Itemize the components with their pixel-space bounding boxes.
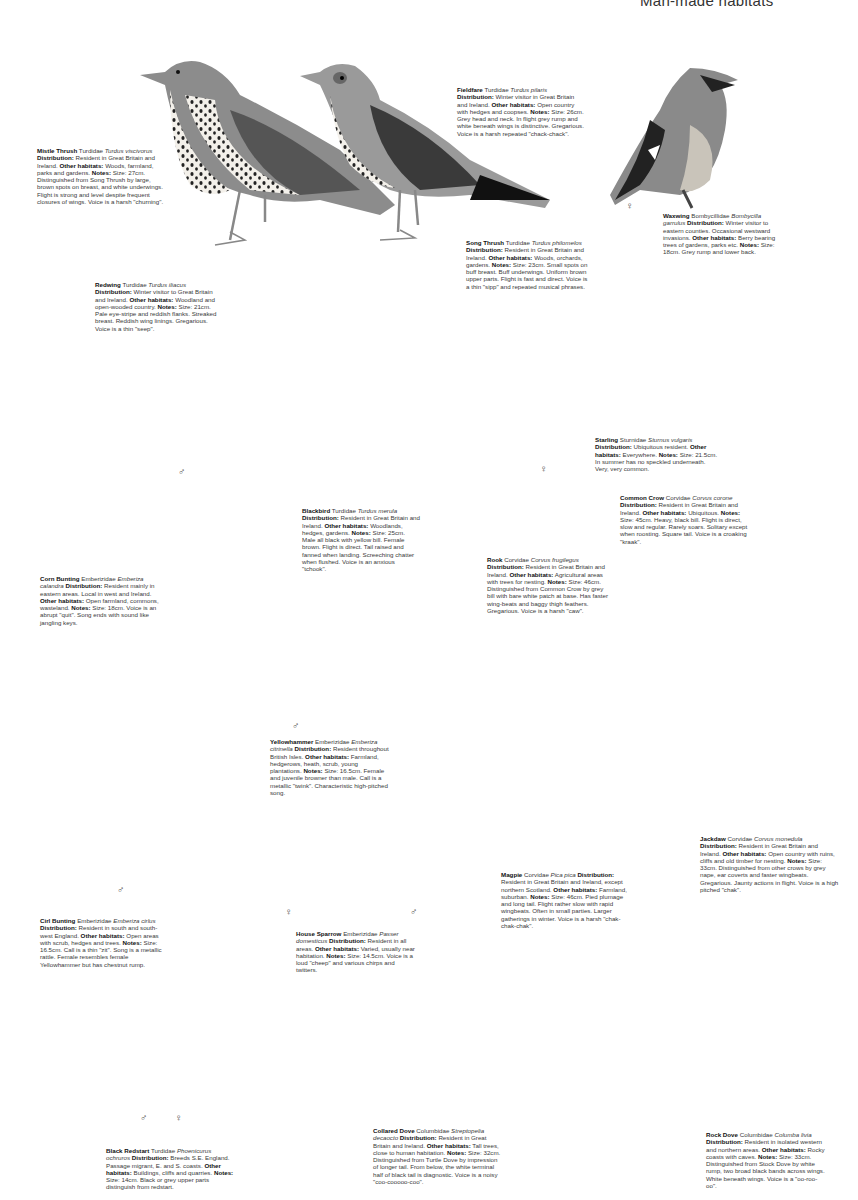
caption-song-thrush: Song Thrush Turdidae Turdus philomelos D… bbox=[466, 239, 591, 290]
male-symbol-blackbird: ♂ bbox=[178, 466, 186, 477]
caption-magpie: Magpie Corvidae Pica pica Distribution: … bbox=[501, 871, 629, 929]
caption-cirl-bunting: Cirl Bunting Emberizidae Emberiza cirlus… bbox=[40, 917, 165, 968]
caption-yellowhammer: Yellowhammer Emberizidae Emberiza citrin… bbox=[270, 738, 390, 796]
caption-corn-bunting: Corn Bunting Emberizidae Emberiza caland… bbox=[40, 575, 160, 626]
male-symbol-black-redstart: ♂ bbox=[140, 1112, 148, 1123]
caption-mistle-thrush: Mistle Thrush Turdidae Turdus viscivorus… bbox=[37, 147, 167, 205]
female-symbol-waxwing: ♀ bbox=[626, 200, 634, 211]
caption-black-redstart: Black Redstart Turdidae Phoenicurus ochr… bbox=[106, 1147, 236, 1191]
waxwing-illustration bbox=[610, 68, 738, 208]
caption-fieldfare: Fieldfare Turdidae Turdus pilaris Distri… bbox=[457, 86, 585, 137]
caption-house-sparrow: House Sparrow Emberizidae Passer domesti… bbox=[296, 930, 416, 974]
male-symbol-yellowhammer: ♂ bbox=[292, 720, 300, 731]
caption-starling: Starling Sturnidae Sturnus vulgaris Dist… bbox=[595, 436, 720, 472]
caption-jackdaw: Jackdaw Corvidae Corvus monedula Distrib… bbox=[700, 835, 840, 893]
male-symbol-house-sparrow: ♂ bbox=[410, 906, 418, 917]
female-symbol-blackbird: ♀ bbox=[540, 463, 548, 474]
female-symbol-black-redstart: ♀ bbox=[175, 1112, 183, 1123]
caption-collared-dove: Collared Dove Columbidae Streptopelia de… bbox=[373, 1127, 501, 1185]
caption-rock-dove: Rock Dove Columbidae Columba livia Distr… bbox=[706, 1131, 826, 1189]
caption-waxwing: Waxwing Bombycillidae Bombycilla garrulu… bbox=[663, 212, 781, 256]
caption-common-crow: Common Crow Corvidae Corvus corone Distr… bbox=[620, 494, 748, 545]
caption-redwing: Redwing Turdidae Turdus iliacus Distribu… bbox=[95, 281, 220, 332]
male-symbol-cirl-bunting: ♂ bbox=[117, 884, 125, 895]
caption-blackbird: Blackbird Turdidae Turdus merula Distrib… bbox=[302, 507, 420, 573]
caption-rook: Rook Corvidae Corvus frugilegus Distribu… bbox=[487, 556, 612, 614]
female-symbol-house-sparrow: ♀ bbox=[285, 906, 293, 917]
